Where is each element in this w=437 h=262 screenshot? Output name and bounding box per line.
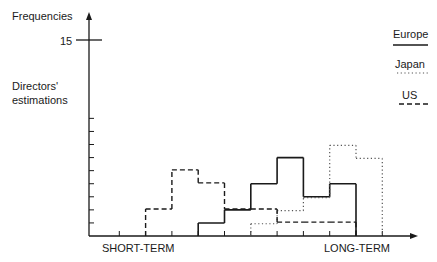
series-japan — [251, 145, 382, 236]
y-axis-arrow-icon — [86, 12, 92, 20]
legend-swatches — [393, 45, 428, 104]
histogram-series — [146, 145, 383, 236]
histogram-plot — [0, 0, 437, 262]
axes — [76, 12, 418, 239]
x-axis-arrow-icon — [410, 233, 418, 239]
y-minor-ticks — [89, 118, 94, 223]
